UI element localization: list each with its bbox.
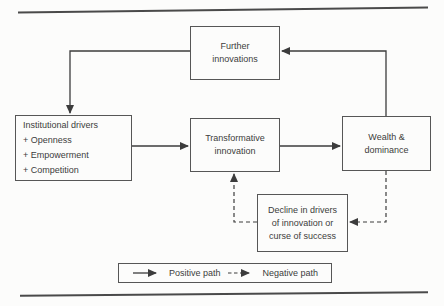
negative-path-arrow-icon — [227, 268, 255, 278]
legend-box: Positive path Negative path — [118, 263, 332, 283]
node-decline-line1: Decline in drivers — [268, 204, 337, 217]
legend-positive-label: Positive path — [169, 268, 221, 278]
arrow-wealth-to-further — [282, 51, 386, 116]
node-institutional-item-empowerment: + Empowerment — [23, 148, 89, 163]
node-institutional-drivers: Institutional drivers + Openness + Empow… — [15, 115, 132, 181]
positive-path-arrow-icon — [132, 268, 162, 278]
arrow-wealth-to-decline-dashed — [350, 171, 386, 222]
node-wealth-dominance: Wealth & dominance — [342, 116, 431, 171]
node-institutional-title: Institutional drivers — [23, 118, 98, 133]
node-wealth-line2: dominance — [364, 144, 408, 157]
node-decline-drivers: Decline in drivers of innovation or curs… — [257, 194, 348, 252]
node-decline-line2: of innovation or — [272, 217, 334, 230]
figure-canvas: Further innovations Institutional driver… — [0, 0, 444, 306]
node-further-innovations: Further innovations — [190, 26, 280, 80]
node-wealth-line1: Wealth & — [368, 131, 404, 144]
node-transformative-line1: Transformative — [205, 132, 265, 145]
legend-negative-label: Negative path — [262, 268, 318, 278]
node-institutional-item-openness: + Openness — [23, 133, 72, 148]
arrow-decline-to-transformative-dashed — [234, 174, 257, 222]
node-further-line2: innovations — [212, 53, 258, 66]
node-transformative-innovation: Transformative innovation — [190, 118, 280, 172]
arrow-further-to-institutional — [70, 51, 190, 113]
node-decline-line3: curse of success — [269, 230, 336, 243]
node-transformative-line2: innovation — [214, 145, 255, 158]
node-further-line1: Further — [220, 40, 249, 53]
node-institutional-item-competition: + Competition — [23, 163, 79, 178]
